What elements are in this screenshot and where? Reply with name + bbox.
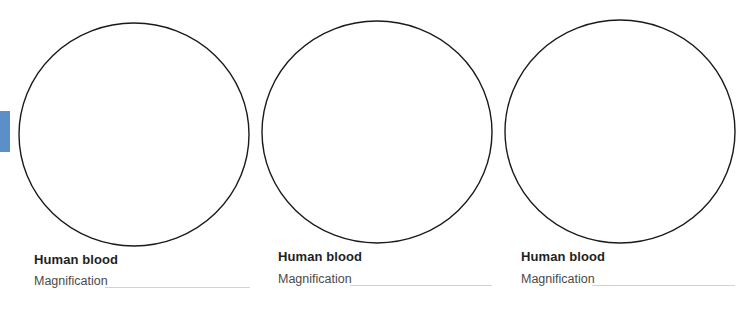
drawing-panel-3: Human blood Magnification — [0, 0, 753, 313]
panel-title: Human blood — [521, 249, 605, 264]
magnification-label: Magnification — [521, 272, 595, 286]
magnification-input-line[interactable] — [592, 285, 735, 286]
drawing-circle-3 — [0, 0, 753, 260]
